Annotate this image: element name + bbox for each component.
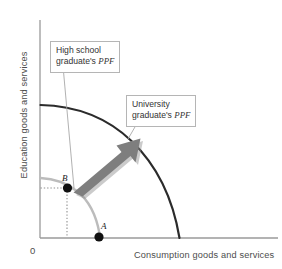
callout-high-school-line2: graduate's PPF: [56, 56, 114, 68]
point-b-label: B: [62, 173, 68, 183]
diagram-canvas: [0, 0, 282, 269]
callout-university-ppf-abbrev: PPF: [174, 110, 190, 120]
y-axis-title: Education goods and services: [19, 35, 29, 195]
growth-arrow: [74, 139, 144, 200]
ppf-diagram: Education goods and services Consumption…: [0, 0, 282, 269]
callout-university-line1: University: [132, 99, 190, 110]
callout-high-school-line1: High school: [56, 45, 114, 56]
leader-line-high-school: [63, 66, 74, 188]
origin-label: 0: [30, 245, 35, 256]
callout-high-school-ppf-abbrev: PPF: [98, 56, 114, 66]
callout-high-school-ppf: High school graduate's PPF: [50, 41, 120, 73]
callout-university-ppf: University graduate's PPF: [126, 95, 196, 127]
callout-university-prefix: graduate's: [132, 110, 174, 120]
x-axis-title: Consumption goods and services: [134, 250, 274, 260]
callout-university-line2: graduate's PPF: [132, 110, 190, 122]
callout-high-school-prefix: graduate's: [56, 56, 98, 66]
point-a-marker: [94, 232, 103, 241]
point-b-marker: [63, 183, 72, 192]
point-a-label: A: [101, 221, 107, 231]
